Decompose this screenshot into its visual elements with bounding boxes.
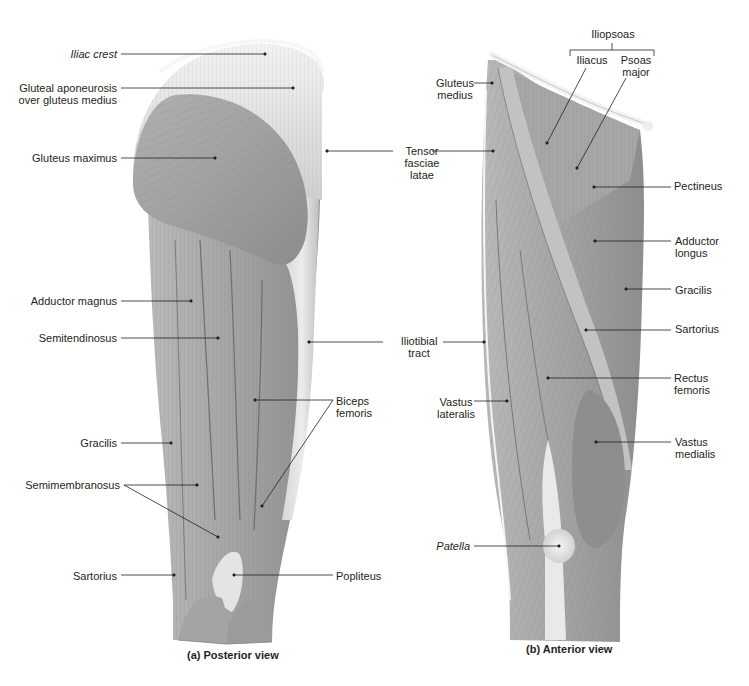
- leader-gluteal-aponeurosis-dot: [292, 87, 294, 89]
- label-iliopsoas: Iliopsoas: [585, 28, 641, 40]
- label-gluteal-aponeurosis: Gluteal aponeurosis over gluteus medius: [19, 82, 117, 106]
- label-vastus-medialis: Vastus medialis: [675, 436, 715, 460]
- label-rectus-femoris: Rectus femoris: [674, 372, 710, 396]
- leader-adductor-magnus-dot: [190, 300, 192, 302]
- label-gluteus-maximus: Gluteus maximus: [32, 152, 117, 164]
- leader-semimembranosus-b-dot: [217, 536, 219, 538]
- label-biceps-femoris: Biceps femoris: [336, 395, 372, 419]
- leader-sartorius-posterior-dot: [173, 574, 175, 576]
- leader-rectus-femoris-dot: [547, 377, 549, 379]
- leader-iliotibial-post-dot: [308, 341, 310, 343]
- leader-biceps-femoris-b-dot: [261, 505, 263, 507]
- leader-semitendinosus-dot: [217, 337, 219, 339]
- label-adductor-magnus: Adductor magnus: [31, 295, 117, 307]
- label-gluteus-medius: Gluteus medius: [430, 77, 480, 101]
- leader-iliacus-dot: [546, 142, 548, 144]
- leader-semimembranosus-a-dot: [196, 484, 198, 486]
- leader-gluteus-maximus-dot: [214, 157, 216, 159]
- leader-gracilis-anterior-dot: [625, 288, 627, 290]
- leader-popliteus-dot: [233, 574, 235, 576]
- label-iliotibial-tract: Iliotibial tract: [386, 335, 452, 359]
- label-vastus-lateralis: Vastus lateralis: [431, 396, 481, 420]
- leader-iliac-crest-dot: [264, 53, 266, 55]
- leader-sartorius-anterior-dot: [585, 329, 587, 331]
- leader-biceps-femoris-a-dot: [254, 399, 256, 401]
- leader-vastus-medialis-dot: [595, 441, 597, 443]
- anatomy-figure: Iliac crest Gluteal aponeurosis over glu…: [0, 0, 749, 686]
- label-sartorius-posterior: Sartorius: [73, 570, 117, 582]
- label-psoas-major: Psoas major: [616, 54, 656, 78]
- anterior-leg-illustration: [481, 55, 653, 642]
- label-iliac-crest: Iliac crest: [71, 48, 117, 60]
- leader-psoas-major-dot: [576, 167, 578, 169]
- label-popliteus: Popliteus: [336, 570, 381, 582]
- leader-tensor-ant-dot: [492, 150, 494, 152]
- posterior-leg-illustration: [133, 41, 324, 644]
- leader-gracilis-posterior-dot: [170, 442, 172, 444]
- leader-pectineus-dot: [593, 186, 595, 188]
- label-iliacus: Iliacus: [572, 54, 612, 66]
- label-semitendinosus: Semitendinosus: [39, 332, 117, 344]
- label-tensor-fasciae-latae: Tensor fasciae latae: [396, 145, 448, 181]
- label-gracilis-anterior: Gracilis: [675, 284, 712, 296]
- label-pectineus: Pectineus: [674, 180, 722, 192]
- leader-vastus-lateralis-dot: [506, 400, 508, 402]
- leader-gluteus-medius-dot: [491, 82, 493, 84]
- leader-tensor-post-dot: [326, 150, 328, 152]
- label-semimembranosus: Semimembranosus: [25, 479, 120, 491]
- label-adductor-longus: Adductor longus: [675, 235, 719, 259]
- caption-anterior-view: (b) Anterior view: [526, 643, 612, 655]
- label-patella: Patella: [436, 540, 470, 552]
- label-gracilis-posterior: Gracilis: [80, 437, 117, 449]
- label-sartorius-anterior: Sartorius: [675, 323, 719, 335]
- leader-patella-dot: [558, 545, 560, 547]
- leader-iliotibial-ant-dot: [483, 341, 485, 343]
- caption-posterior-view: (a) Posterior view: [187, 649, 279, 661]
- leader-adductor-longus-dot: [594, 240, 596, 242]
